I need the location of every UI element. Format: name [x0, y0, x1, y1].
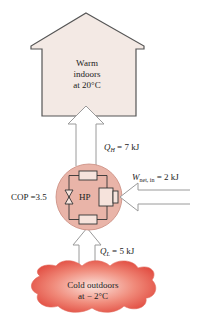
w-net-value: = 2 kJ — [157, 172, 179, 182]
warm-line-2: indoors — [58, 69, 116, 80]
q-high-subscript: H — [111, 147, 115, 153]
w-net-in-label: Wnet, in = 2 kJ — [132, 172, 179, 186]
warm-line-3: at 20°C — [58, 80, 116, 91]
warm-indoors-label: Warm indoors at 20°C — [58, 58, 116, 91]
w-net-symbol: W — [132, 172, 140, 182]
w-net-in-arrow — [120, 183, 190, 211]
q-high-value: = 7 kJ — [117, 142, 139, 152]
heat-pump-label: HP — [79, 192, 91, 203]
cold-line-1: Cold outdoors — [48, 280, 138, 291]
w-net-subscript: net, in — [140, 177, 155, 183]
warm-line-1: Warm — [58, 58, 116, 69]
cop-label: COP =3.5 — [11, 192, 47, 203]
cold-line-2: at − 2°C — [48, 291, 138, 302]
q-low-label: QL = 5 kJ — [100, 246, 134, 260]
q-low-subscript: L — [107, 251, 110, 257]
q-high-label: QH = 7 kJ — [104, 142, 139, 156]
heat-pump-diagram — [0, 0, 201, 316]
q-low-value: = 5 kJ — [112, 246, 134, 256]
cold-outdoors-label: Cold outdoors at − 2°C — [48, 280, 138, 302]
